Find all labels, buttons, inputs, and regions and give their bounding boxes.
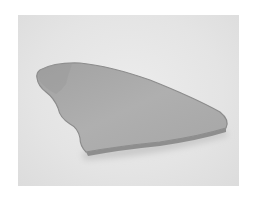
stone-image — [0, 0, 256, 201]
